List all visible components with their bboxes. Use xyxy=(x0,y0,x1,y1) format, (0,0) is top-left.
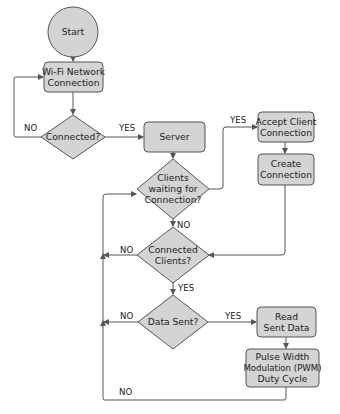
svg-text:Sent Data: Sent Data xyxy=(264,322,310,333)
svg-text:Connection: Connection xyxy=(260,127,312,138)
svg-text:Clients?: Clients? xyxy=(155,255,191,266)
svg-text:Connected?: Connected? xyxy=(46,131,100,142)
label-connected-no: NO xyxy=(24,123,37,133)
node-clients-waiting-decision: Clients waiting for Connection? xyxy=(137,159,209,219)
label-datasent-yes: YES xyxy=(224,311,241,321)
edges xyxy=(14,57,286,400)
node-connected-decision: Connected? xyxy=(41,115,105,159)
svg-text:Create: Create xyxy=(271,158,302,169)
node-start: Start xyxy=(48,7,98,57)
svg-text:Connected: Connected xyxy=(148,244,197,255)
svg-text:waiting for: waiting for xyxy=(148,183,197,194)
svg-text:Start: Start xyxy=(62,26,85,37)
arrow-up-icon xyxy=(100,320,106,326)
svg-text:Read: Read xyxy=(275,311,298,322)
svg-text:Pulse Width: Pulse Width xyxy=(256,351,310,362)
node-accept-client-connection: Accept Client Connection xyxy=(256,112,317,142)
edge-create-connectedclients xyxy=(209,185,285,255)
node-create-connection: Create Connection xyxy=(258,154,314,185)
node-pwm-duty-cycle: Pulse Width Modulation (PWM) Duty Cycle xyxy=(243,349,321,387)
svg-text:Accept Client: Accept Client xyxy=(256,116,317,127)
label-datasent-no: NO xyxy=(120,311,133,321)
label-connected-yes: YES xyxy=(118,123,135,133)
arrow-up-icon xyxy=(100,253,106,259)
svg-text:Clients: Clients xyxy=(157,172,189,183)
node-connected-clients-decision: Connected Clients? xyxy=(137,227,209,283)
svg-text:Connection: Connection xyxy=(48,77,100,88)
svg-text:Server: Server xyxy=(159,131,189,142)
label-pwm-no: NO xyxy=(119,387,132,397)
svg-text:Data Sent?: Data Sent? xyxy=(148,316,199,327)
svg-text:Wi-Fi Network: Wi-Fi Network xyxy=(42,66,106,77)
node-wifi-network-connection: Wi-Fi Network Connection xyxy=(42,62,106,92)
label-connectedclients-no: NO xyxy=(120,245,133,255)
label-clients-no: NO xyxy=(177,220,190,230)
node-server: Server xyxy=(144,122,205,152)
svg-text:Connection: Connection xyxy=(260,169,312,180)
node-data-sent-decision: Data Sent? xyxy=(138,295,208,349)
node-read-sent-data: Read Sent Data xyxy=(257,307,316,337)
flowchart-canvas: NO YES YES NO NO YES NO YES NO Start Wi-… xyxy=(0,0,340,414)
label-connectedclients-yes: YES xyxy=(177,283,194,293)
edge-clients-yes-accept xyxy=(209,127,257,189)
svg-text:Duty Cycle: Duty Cycle xyxy=(258,373,308,384)
label-clients-yes: YES xyxy=(229,115,246,125)
svg-text:Connection?: Connection? xyxy=(145,194,202,205)
svg-text:Modulation (PWM): Modulation (PWM) xyxy=(243,363,321,373)
edge-labels: NO YES YES NO NO YES NO YES NO xyxy=(24,115,246,397)
